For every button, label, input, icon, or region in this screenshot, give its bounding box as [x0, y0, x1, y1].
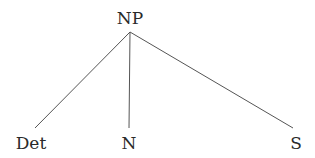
syntax-tree: NP Det N S [0, 0, 315, 158]
node-det: Det [16, 133, 47, 153]
node-np: NP [117, 8, 143, 28]
node-n: N [122, 133, 137, 153]
edge-np-s [130, 32, 293, 128]
node-s: S [290, 133, 302, 153]
edge-np-n [129, 32, 130, 128]
edge-np-det [35, 32, 130, 128]
